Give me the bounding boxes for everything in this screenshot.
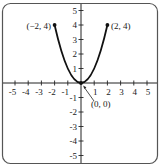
x-tick-label: -1 <box>62 87 70 97</box>
x-tick-label: 1 <box>93 87 98 97</box>
y-tick-label: -4 <box>70 136 78 146</box>
x-tick-label: 3 <box>119 87 124 97</box>
x-tick-label: 2 <box>106 87 111 97</box>
point-label-left: (−2, 4) <box>26 21 51 31</box>
y-tick-label: 1 <box>73 64 78 74</box>
x-tick-label: -2 <box>48 87 56 97</box>
y-tick-label: -5 <box>70 151 78 161</box>
y-tick-label: -1 <box>70 93 78 103</box>
point-label-right: (2, 4) <box>111 21 131 31</box>
x-tick-label: 4 <box>133 87 138 97</box>
endpoint-left-marker <box>53 23 57 27</box>
vertex-marker <box>79 81 83 85</box>
parabola-graph: -5 -4 -3 -2 -1 1 2 3 4 5 5 4 3 2 1 -1 -2… <box>0 0 160 167</box>
x-tick-label: -5 <box>9 87 17 97</box>
y-tick-label: 5 <box>73 6 78 16</box>
point-label-origin: (0, 0) <box>91 99 111 109</box>
y-tick-label: 3 <box>73 35 78 45</box>
x-tick-label: 5 <box>146 87 151 97</box>
x-tick-label: -4 <box>22 87 30 97</box>
x-tick-label: -3 <box>35 87 43 97</box>
y-tick-label: -3 <box>70 122 78 132</box>
y-tick-label: 4 <box>73 20 78 30</box>
endpoint-right-marker <box>106 23 110 27</box>
arrowhead-icon <box>83 86 86 90</box>
y-tick-label: 2 <box>73 49 78 59</box>
y-tick-label: -2 <box>70 107 78 117</box>
